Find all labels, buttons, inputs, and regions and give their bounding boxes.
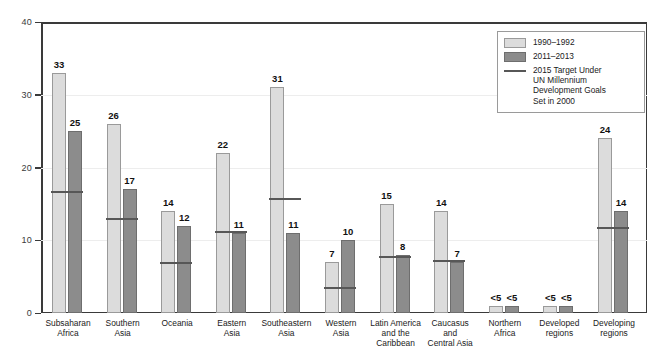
bar-value-label-new: 12 <box>179 212 190 223</box>
bar-group: 2617 <box>107 22 139 313</box>
y-axis-tick <box>35 240 41 242</box>
x-axis-label-line: Eastern <box>217 318 246 328</box>
bar-group: 3111 <box>270 22 302 313</box>
x-axis-label-line: Developed <box>539 318 579 328</box>
target-line-2015 <box>433 260 465 262</box>
bar-value-label-old: 14 <box>436 197 447 208</box>
bar-2011-2013 <box>559 306 573 313</box>
bar-1990-1992 <box>543 306 557 313</box>
x-axis-label-line: Subsaharan <box>45 318 90 328</box>
legend-item-2011-2013: 2011–2013 <box>504 51 638 62</box>
target-line-2015 <box>379 256 411 258</box>
bar-value-label-old: <5 <box>490 292 501 303</box>
bar-2011-2013 <box>341 240 355 313</box>
x-axis-label-line: Caribbean <box>376 338 415 348</box>
legend-target-line-2: UN Millennium Development Goals <box>533 75 606 95</box>
x-axis-label-line: Southeastern <box>261 318 311 328</box>
legend-label-target: 2015 Target Under UN Millennium Developm… <box>533 65 638 106</box>
legend-item-1990-1992: 1990–1992 <box>504 37 638 48</box>
bar-2011-2013 <box>396 255 410 313</box>
bar-1990-1992 <box>380 204 394 313</box>
y-axis-tick-label: 20 <box>22 163 32 173</box>
x-axis-label-line: Central Asia <box>428 338 473 348</box>
bar-value-label-new: 11 <box>234 219 244 230</box>
bar-value-label-old: 24 <box>600 124 611 135</box>
bar-2011-2013 <box>177 226 191 313</box>
x-axis-label-line: Southern <box>106 318 140 328</box>
bar-1990-1992 <box>598 138 612 313</box>
bar-1990-1992 <box>489 306 503 313</box>
y-axis-tick-label: 40 <box>22 17 32 27</box>
legend-item-2015-target: 2015 Target Under UN Millennium Developm… <box>504 65 638 106</box>
target-line-2015 <box>215 231 247 233</box>
legend-target-line-3: Set in 2000 <box>533 96 575 106</box>
target-line-2015 <box>597 227 629 229</box>
bar-2011-2013 <box>286 233 300 313</box>
x-axis-label-line: Asia <box>224 328 240 338</box>
bar-2011-2013 <box>232 233 246 313</box>
x-axis-label-line: Africa <box>494 328 515 338</box>
bar-chart: 01020304033252617141222113111710158147<5… <box>0 0 666 360</box>
target-line-2015 <box>160 262 192 264</box>
bar-1990-1992 <box>52 73 66 313</box>
bar-value-label-old: 26 <box>108 110 119 121</box>
x-axis-label-line: Asia <box>278 328 294 338</box>
bar-group: 710 <box>325 22 357 313</box>
x-axis-label-line: Asia <box>333 328 349 338</box>
x-axis-label-line: regions <box>546 328 573 338</box>
bar-1990-1992 <box>434 211 448 313</box>
bar-value-label-new: <5 <box>561 292 572 303</box>
bar-value-label-old: 31 <box>272 73 283 84</box>
bar-value-label-new: <5 <box>506 292 517 303</box>
target-line-2015 <box>106 218 138 220</box>
target-line-2015 <box>51 191 83 193</box>
bar-value-label-new: 14 <box>616 197 627 208</box>
bar-value-label-new: 8 <box>400 241 405 252</box>
y-axis-tick <box>35 313 41 315</box>
bar-value-label-old: 7 <box>329 248 334 259</box>
x-axis-label-line: and <box>443 328 457 338</box>
bar-value-label-old: 15 <box>381 190 392 201</box>
legend-swatch-icon-new <box>504 52 526 62</box>
x-axis-label-line: Oceania <box>162 318 193 328</box>
legend-target-line-1: 2015 Target Under <box>533 65 602 75</box>
bar-2011-2013 <box>123 189 137 313</box>
bar-value-label-old: 33 <box>54 59 65 70</box>
y-axis-tick <box>35 22 41 24</box>
bar-value-label-new: 11 <box>288 219 298 230</box>
bar-value-label-old: 14 <box>163 197 174 208</box>
x-axis-label-line: Caucasus <box>432 318 469 328</box>
bar-group: 3325 <box>52 22 84 313</box>
x-axis-label-line: Developing <box>593 318 635 328</box>
bar-2011-2013 <box>505 306 519 313</box>
bar-value-label-new: 17 <box>124 175 135 186</box>
legend-label-old: 1990–1992 <box>533 37 575 47</box>
x-axis-label-line: Africa <box>57 328 78 338</box>
bar-group: 147 <box>434 22 466 313</box>
x-axis-label-line: and the <box>382 328 410 338</box>
x-axis-label-line: Asia <box>114 328 130 338</box>
bar-group: 158 <box>380 22 412 313</box>
y-axis-tick <box>35 167 41 169</box>
bar-2011-2013 <box>450 262 464 313</box>
bar-value-label-old: <5 <box>545 292 556 303</box>
bar-value-label-new: 10 <box>343 226 354 237</box>
target-line-2015 <box>324 287 356 289</box>
bar-value-label-new: 7 <box>455 248 460 259</box>
legend-line-icon-target <box>504 66 526 76</box>
y-axis-tick-label: 0 <box>27 308 32 318</box>
x-axis-label-line: Northern <box>489 318 522 328</box>
y-axis-tick <box>35 94 41 96</box>
legend-label-new: 2011–2013 <box>533 51 574 61</box>
bar-group: 2211 <box>216 22 248 313</box>
y-axis-tick-label: 30 <box>22 90 32 100</box>
chart-legend: 1990–1992 2011–2013 2015 Target Under UN… <box>497 31 645 113</box>
legend-swatch-icon-old <box>504 38 526 48</box>
bar-2011-2013 <box>68 131 82 313</box>
x-axis-label-line: regions <box>600 328 627 338</box>
target-line-2015 <box>269 198 301 200</box>
y-axis-tick-label: 10 <box>22 235 32 245</box>
bar-value-label-old: 22 <box>218 139 229 150</box>
x-axis-label: Developingregions <box>578 318 650 338</box>
x-axis-label-line: Western <box>325 318 356 328</box>
